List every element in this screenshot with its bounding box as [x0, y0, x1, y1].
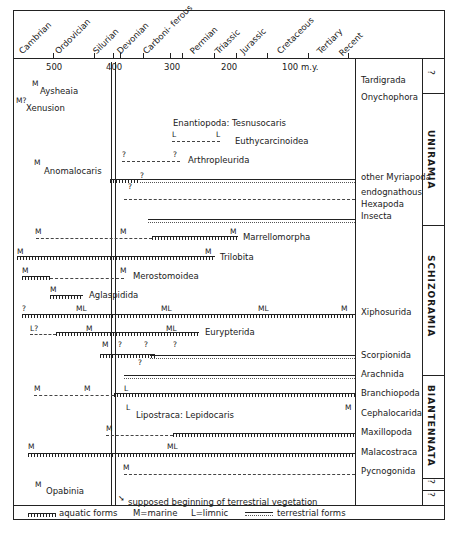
fossil-anomalocaris: Anomalocaris [44, 166, 102, 176]
tick-500: 500 [46, 62, 62, 72]
arrow-icon: ➘ [118, 494, 125, 503]
fossil-lipostraca: Lipostraca: Lepidocaris [136, 410, 234, 420]
fossil-arthropleurida: Arthropleurida [188, 155, 249, 165]
taxon-maxillopoda: Maxillopoda [361, 427, 412, 437]
fossil-xenusion: Xenusion [26, 103, 65, 113]
fossil-eurypterida: Eurypterida [205, 327, 255, 337]
group-biantennata: BIANTENNATA [426, 385, 436, 467]
legend-limnic: L=limnic [191, 508, 228, 518]
tick-100: 100 m.y. [282, 62, 318, 72]
taxon-insecta: Insecta [361, 211, 392, 221]
fossil-opabinia: Opabinia [46, 486, 84, 496]
silurian-line-b [115, 62, 116, 505]
taxon-hexapoda: Hexapoda [361, 199, 404, 209]
taxon-malacostraca: Malacostraca [361, 447, 417, 457]
group-question-pycnogonida: ? [426, 479, 436, 485]
fossil-aglaspidida: Aglaspidida [89, 290, 138, 300]
fossil-euthycarcinoidea: Euthycarcinoidea [235, 136, 309, 146]
legend-aquatic: aquatic forms [59, 508, 118, 518]
legend-terrestrial: terrestrial forms [277, 508, 346, 518]
terrestrial-symbol [245, 512, 273, 516]
fossil-enantiopoda: Enantiopoda: Tesnusocaris [173, 118, 286, 128]
taxon-xiphosurida: Xiphosurida [361, 307, 411, 317]
taxa-column-divider [355, 58, 356, 505]
taxon-tardigrada: Tardigrada [361, 75, 406, 85]
legend: aquatic forms M=marine L=limnic terrestr… [13, 505, 445, 521]
group-question-tardigrada: ? [426, 70, 436, 76]
taxon-pycnogonida: Pycnogonida [361, 466, 415, 476]
taxon-endognathous: endognathous [361, 187, 422, 197]
legend-marine: M=marine [133, 508, 177, 518]
taxon-cephalocarida: Cephalocarida [361, 408, 422, 418]
tick-200: 200 [221, 62, 237, 72]
tick-300: 300 [164, 62, 180, 72]
taxon-branchiopoda: Branchiopoda [361, 388, 420, 398]
taxon-arachnida: Arachnida [361, 369, 404, 379]
group-question-opabinia: ? [426, 492, 436, 498]
taxon-onychophora: Onychophora [361, 92, 418, 102]
taxon-other-myriapoda: other Myriapoda [361, 172, 431, 182]
fossil-trilobita: Trilobita [220, 252, 254, 262]
group-schizoramia: SCHIZORAMIA [426, 255, 436, 337]
fossil-marrellomorpha: Marrellomorpha [243, 232, 310, 242]
time-axis [13, 58, 433, 59]
taxon-scorpionida: Scorpionida [361, 350, 411, 360]
fossil-merostomoidea: Merostomoidea [133, 271, 199, 281]
silurian-line-a [111, 62, 112, 505]
aquatic-symbol [28, 513, 56, 517]
fossil-aysheaia: Aysheaia [40, 86, 78, 96]
